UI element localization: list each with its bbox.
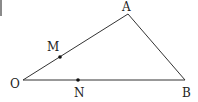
label-A: A xyxy=(121,0,131,14)
label-B: B xyxy=(182,86,191,100)
label-M: M xyxy=(47,40,59,54)
segment-AB xyxy=(128,14,185,80)
point-N-dot xyxy=(76,78,80,82)
triangle-diagram: O A B M N xyxy=(0,0,198,102)
diagram-svg: O A B M N xyxy=(0,0,198,102)
segment-OA xyxy=(23,14,128,80)
edge-border-fragment xyxy=(0,0,2,16)
point-M-dot xyxy=(58,55,62,59)
label-N: N xyxy=(74,86,85,100)
label-O: O xyxy=(10,77,20,91)
